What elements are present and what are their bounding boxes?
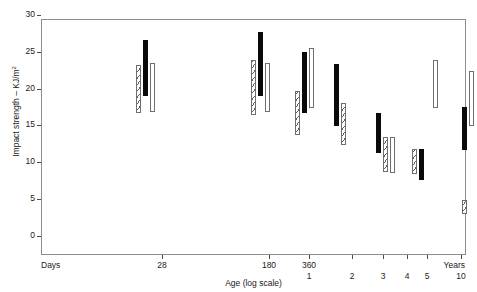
plot-area <box>41 19 466 255</box>
y-axis-unit-exponent: 2 <box>11 66 17 69</box>
x-tick-mark <box>269 255 270 259</box>
range-bar <box>334 64 339 126</box>
range-bar <box>433 60 438 108</box>
x-tick-label: 28 <box>157 260 166 271</box>
y-tick: 0 <box>0 236 41 237</box>
range-bar <box>376 113 381 154</box>
range-bar <box>251 60 256 115</box>
x-tick-mark <box>407 255 408 259</box>
range-bar <box>265 63 270 112</box>
range-bar <box>462 107 467 150</box>
y-tick-label: 5 <box>30 192 35 205</box>
range-bar <box>469 71 474 126</box>
range-bar <box>412 149 417 174</box>
impact-strength-chart: 051015202530 Impact strength – KJ/m2 Day… <box>0 0 477 292</box>
range-bar <box>136 65 141 113</box>
range-bar <box>150 63 155 112</box>
x-tick-mark <box>427 255 428 259</box>
y-tick-label: 25 <box>26 45 35 58</box>
y-axis-title: Impact strength – KJ/m2 <box>11 11 22 211</box>
x-tick-mark <box>162 255 163 259</box>
range-bar <box>341 103 346 145</box>
x-tick-label: Years <box>444 260 465 271</box>
y-tick-label: 0 <box>30 229 35 242</box>
y-tick-label: 20 <box>26 82 35 95</box>
y-tick-label: 30 <box>26 8 35 21</box>
range-bar <box>419 149 424 180</box>
x-tick-label: 180 <box>262 260 276 271</box>
y-tick-mark <box>37 15 41 16</box>
range-bar <box>295 91 300 135</box>
y-tick-label: 10 <box>26 155 35 168</box>
range-bar <box>390 137 395 173</box>
x-tick-mark <box>461 255 462 259</box>
y-axis-title-text: Impact strength – KJ/m <box>11 69 21 156</box>
range-bar <box>143 40 148 97</box>
range-bar <box>302 52 307 113</box>
x-tick-label: 360 <box>302 260 316 271</box>
x-tick-mark <box>352 255 353 259</box>
x-axis-title: Age (log scale) <box>41 278 466 288</box>
x-tick-label: Days <box>41 260 60 271</box>
x-tick-mark <box>309 255 310 259</box>
x-tick-mark <box>383 255 384 259</box>
range-bar <box>309 48 314 108</box>
range-bar <box>462 200 467 214</box>
range-bar <box>383 137 388 172</box>
range-bar <box>258 32 263 95</box>
y-tick-label: 15 <box>26 118 35 131</box>
